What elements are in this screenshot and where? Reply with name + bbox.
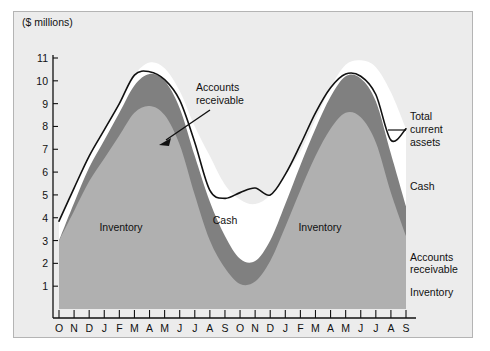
x-tick-label: O (55, 322, 63, 334)
axis-unit-label: ($ millions) (22, 16, 73, 28)
y-tick-label: 4 (42, 212, 48, 224)
x-tick-label: M (130, 322, 139, 334)
y-tick-label: 9 (42, 98, 48, 110)
accounts-receivable-callout-line1: Accounts (196, 81, 239, 93)
right-labels: Cash Accounts receivable Inventory (410, 180, 458, 298)
x-tick-label: N (70, 322, 78, 334)
x-tick-label: N (251, 322, 259, 334)
y-tick-label: 2 (42, 257, 48, 269)
y-axis: 1234567891011 (36, 52, 58, 318)
x-tick-label: F (297, 322, 303, 334)
x-tick-label: M (160, 322, 169, 334)
x-tick-label: S (402, 322, 409, 334)
x-tick-label: S (221, 322, 228, 334)
total-current-assets-label-line1: Total (410, 110, 432, 122)
y-tick-label: 3 (42, 235, 48, 247)
x-tick-label: J (283, 322, 288, 334)
y-tick-label: 6 (42, 166, 48, 178)
accounts-receivable-callout-line2: receivable (196, 94, 244, 106)
current-assets-area-chart: 1234567891011 ONDJFMAMJJASONDJFMAMJJAS (… (14, 12, 472, 337)
x-tick-label: M (341, 322, 350, 334)
right-label-accounts-receivable-2: receivable (410, 263, 458, 275)
x-tick-label: J (358, 322, 363, 334)
y-tick-label: 7 (42, 143, 48, 155)
x-tick-label: J (373, 322, 378, 334)
x-tick-label: M (311, 322, 320, 334)
right-label-cash: Cash (410, 180, 435, 192)
x-tick-label: D (85, 322, 93, 334)
chart-frame: 1234567891011 ONDJFMAMJJASONDJFMAMJJAS (… (13, 11, 473, 338)
figure-root: 1234567891011 ONDJFMAMJJASONDJFMAMJJAS (… (0, 0, 490, 351)
x-tick-label: A (146, 322, 153, 334)
y-tick-label: 11 (37, 52, 48, 64)
x-tick-label: J (177, 322, 182, 334)
right-label-accounts-receivable-1: Accounts (410, 251, 453, 263)
y-tick-label: 8 (42, 120, 48, 132)
inventory-label-right: Inventory (298, 221, 342, 233)
y-tick-label: 5 (42, 189, 48, 201)
x-tick-label: A (206, 322, 213, 334)
total-current-assets-label-line2: current (410, 123, 443, 135)
x-axis: ONDJFMAMJJASONDJFMAMJJAS (53, 310, 416, 334)
x-tick-label: O (236, 322, 244, 334)
x-tick-label: A (327, 322, 334, 334)
y-tick-label: 1 (42, 280, 48, 292)
x-tick-label: J (102, 322, 107, 334)
x-tick-label: D (266, 322, 274, 334)
cash-label-center: Cash (213, 214, 238, 226)
x-tick-label: F (116, 322, 122, 334)
inventory-label-left: Inventory (99, 221, 143, 233)
total-current-assets-label-line3: assets (410, 136, 440, 148)
y-tick-label: 10 (36, 75, 48, 87)
right-label-inventory: Inventory (410, 286, 454, 298)
x-tick-label: A (387, 322, 394, 334)
x-tick-label: J (192, 322, 197, 334)
